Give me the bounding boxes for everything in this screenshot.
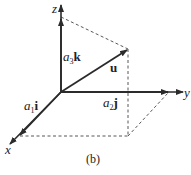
u-label: u — [110, 61, 117, 74]
dashed-guides — [20, 17, 168, 136]
a2j-label: a2j — [103, 96, 118, 112]
vector-decomposition-diagram — [0, 0, 191, 175]
axes — [10, 5, 183, 144]
x-axis-label: x — [5, 143, 11, 156]
y-axis-label: y — [184, 86, 190, 99]
a3k-label: a3k — [63, 50, 81, 66]
a1i-label: a1i — [24, 99, 38, 115]
figure-caption: (b) — [86, 153, 100, 165]
component-vectors — [20, 19, 168, 135]
z-axis-label: z — [52, 2, 57, 15]
